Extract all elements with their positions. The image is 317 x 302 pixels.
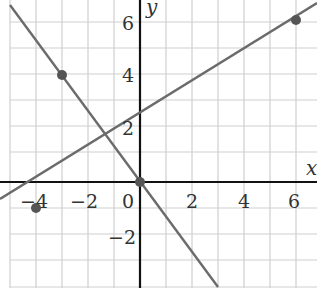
coordinate-plane: −4 −2 0 2 4 6 6 4 2 −2 x y — [0, 0, 317, 302]
y-tick-2: 2 — [122, 117, 134, 139]
point-origin — [135, 177, 145, 187]
y-tick-4: 4 — [122, 64, 134, 86]
x-axis-label: x — [306, 156, 317, 180]
x-tick-6: 6 — [288, 190, 300, 212]
x-tick-neg4: −4 — [20, 190, 48, 212]
y-axis-label: y — [145, 0, 158, 19]
point-6-6 — [291, 15, 301, 25]
x-tick-4: 4 — [238, 190, 250, 212]
x-tick-2: 2 — [186, 190, 198, 212]
x-tick-0: 0 — [122, 190, 134, 212]
grid — [10, 0, 317, 288]
x-tick-neg2: −2 — [70, 190, 98, 212]
y-tick-neg2: −2 — [108, 226, 136, 248]
point-neg3-4 — [57, 70, 67, 80]
y-tick-6: 6 — [122, 12, 134, 34]
